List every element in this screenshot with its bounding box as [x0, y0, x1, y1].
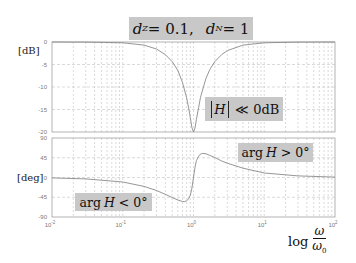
- title-dz-value: = 0.1,: [148, 20, 194, 38]
- x-label-denominator: ω0: [312, 239, 326, 258]
- magnitude-plot: 0-5-10-15-20 [dB]: [18, 39, 335, 135]
- x-axis-label: log ω ω0: [288, 221, 327, 261]
- phase-y-label: [deg]: [17, 172, 44, 183]
- title-dn-subscript: N: [215, 24, 222, 33]
- y-tick-label: 90: [40, 135, 47, 141]
- title-dz: d: [133, 20, 143, 38]
- magnitude-grid: [52, 42, 335, 132]
- abs-bar-right: [228, 101, 230, 118]
- annotation-H: H: [104, 195, 115, 210]
- phase-positive-annotation: arg H > 0°: [238, 143, 313, 162]
- y-tick-label: -15: [38, 107, 47, 113]
- y-tick-label: 0: [44, 39, 48, 45]
- annotation-H: H: [266, 145, 277, 160]
- title-dn: d: [206, 20, 216, 38]
- annotation-arg: arg: [242, 145, 263, 160]
- magnitude-annotation: H ≪ 0dB: [205, 97, 283, 121]
- x-tick-label: 10-1: [115, 220, 126, 228]
- x-label-subscript: 0: [322, 247, 326, 255]
- title-dn-value: = 1: [222, 20, 249, 38]
- x-tick-label: 100: [187, 220, 197, 228]
- annotation-mag-relation: ≪ 0dB: [235, 102, 279, 117]
- x-label-fraction: ω ω0: [312, 225, 326, 258]
- x-tick-label: 10-2: [45, 220, 56, 228]
- x-label-log: log: [288, 234, 308, 249]
- annotation-pos-relation: > 0°: [277, 145, 310, 160]
- y-tick-label: -10: [38, 84, 47, 90]
- y-tick-label: -5: [42, 62, 48, 68]
- x-tick-label: 102: [328, 220, 338, 228]
- y-tick-label: -45: [38, 194, 47, 200]
- x-tick-label: 101: [258, 220, 268, 228]
- phase-negative-annotation: arg H < 0°: [75, 193, 152, 211]
- annotation-H: H: [214, 102, 225, 117]
- magnitude-y-label: [dB]: [18, 45, 40, 56]
- magnitude-y-ticks: 0-5-10-15-20: [38, 39, 47, 135]
- abs-bar-left: [211, 101, 213, 118]
- y-tick-label: 0: [44, 175, 48, 181]
- annotation-arg: arg: [80, 195, 101, 210]
- annotation-neg-relation: < 0°: [115, 195, 148, 210]
- y-tick-label: 45: [40, 155, 47, 161]
- x-label-numerator: ω: [313, 225, 327, 239]
- y-tick-label: -90: [38, 214, 47, 220]
- x-label-omega: ω: [312, 239, 322, 253]
- chart-title: dZ = 0.1, dN = 1: [129, 17, 253, 40]
